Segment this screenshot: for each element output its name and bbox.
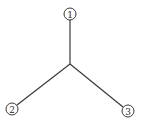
node-1: 1 xyxy=(64,8,76,20)
node-2-label: 2 xyxy=(9,105,15,115)
node-3-label: 3 xyxy=(125,107,131,117)
node-2: 2 xyxy=(6,103,18,115)
node-1-label: 1 xyxy=(67,10,73,20)
tree-diagram: 1 2 3 xyxy=(0,0,143,129)
node-3: 3 xyxy=(122,105,134,117)
edge-center-to-node-3 xyxy=(70,64,123,107)
edge-center-to-node-2 xyxy=(17,64,70,105)
